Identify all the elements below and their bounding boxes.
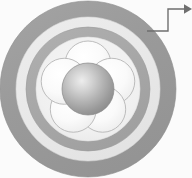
center-sphere bbox=[62, 63, 114, 115]
figure-canvas: Concentric ring cross-section with five-… bbox=[0, 0, 192, 178]
ring-diagram bbox=[0, 0, 192, 178]
